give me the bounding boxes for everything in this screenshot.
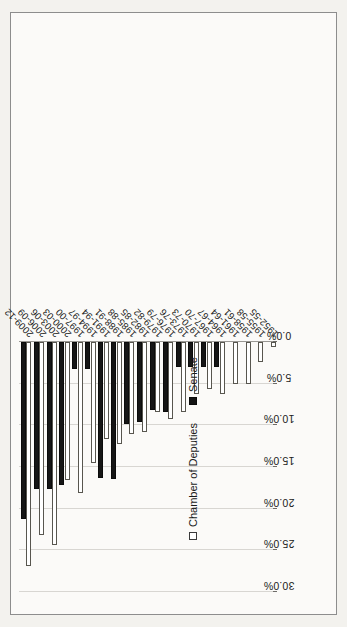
bar-group (213, 342, 226, 592)
legend-label-senate: Senate (187, 357, 199, 392)
bar-senate[interactable] (137, 342, 142, 422)
bar-senate[interactable] (214, 342, 219, 367)
bar-chamber-of-deputies[interactable] (155, 342, 160, 412)
bar-group (200, 342, 213, 592)
scanned-page: Chamber of Deputies Senate 30.0%25.0%20.… (0, 0, 347, 627)
bar-senate[interactable] (98, 342, 103, 478)
bar-chamber-of-deputies[interactable] (26, 342, 31, 566)
bar-chamber-of-deputies[interactable] (129, 342, 134, 434)
bar-chamber-of-deputies[interactable] (271, 342, 276, 347)
bar-group (238, 342, 251, 592)
bar-group (161, 342, 174, 592)
bar-group (45, 342, 58, 592)
value-axis-ticks: 30.0%25.0%20.0%15.0%10.0%5.0%0.0% (277, 342, 335, 592)
chart-rotation-host: Chamber of Deputies Senate 30.0%25.0%20.… (0, 0, 347, 627)
plot-wrapper: Chamber of Deputies Senate 30.0%25.0%20.… (11, 13, 336, 614)
plot-area: Chamber of Deputies Senate (19, 342, 277, 592)
legend-item-chamber-of-deputies[interactable]: Chamber of Deputies (187, 423, 199, 540)
bar-chamber-of-deputies[interactable] (104, 342, 109, 440)
chart-legend: Chamber of Deputies Senate (187, 357, 199, 540)
bar-group (19, 342, 32, 592)
bar-chamber-of-deputies[interactable] (39, 342, 44, 535)
bar-chamber-of-deputies[interactable] (52, 342, 57, 545)
bar-chamber-of-deputies[interactable] (65, 342, 70, 480)
bar-chamber-of-deputies[interactable] (246, 342, 251, 384)
category-axis-labels: 2009-122006-092003-062000-031997-001994-… (19, 252, 277, 342)
bar-chamber-of-deputies[interactable] (207, 342, 212, 390)
bar-chamber-of-deputies[interactable] (78, 342, 83, 493)
bar-chamber-of-deputies[interactable] (258, 342, 263, 362)
legend-swatch-hollow-square-icon (189, 532, 197, 540)
axis-tick-label: 5.0% (267, 372, 292, 384)
bar-group (135, 342, 148, 592)
bar-group (71, 342, 84, 592)
bar-senate[interactable] (34, 342, 39, 490)
axis-tick-label: 10.0% (264, 413, 295, 425)
bar-senate[interactable] (150, 342, 155, 410)
bar-senate[interactable] (201, 342, 206, 367)
bar-senate[interactable] (85, 342, 90, 370)
legend-swatch-filled-square-icon (189, 397, 197, 405)
bar-senate[interactable] (21, 342, 26, 519)
bar-group (96, 342, 109, 592)
bar-senate[interactable] (47, 342, 52, 490)
bar-group (122, 342, 135, 592)
bar-group (251, 342, 264, 592)
bar-senate[interactable] (72, 342, 77, 369)
bar-chamber-of-deputies[interactable] (168, 342, 173, 419)
bar-chamber-of-deputies[interactable] (220, 342, 225, 394)
bar-group (58, 342, 71, 592)
bar-chamber-of-deputies[interactable] (91, 342, 96, 463)
bar-senate[interactable] (124, 342, 129, 424)
bar-chamber-of-deputies[interactable] (233, 342, 238, 384)
bar-group (32, 342, 45, 592)
bar-group (84, 342, 97, 592)
axis-tick-label: 30.0% (264, 580, 295, 592)
bar-chamber-of-deputies[interactable] (142, 342, 147, 432)
axis-tick-label: 25.0% (264, 538, 295, 550)
legend-label-chamber-of-deputies: Chamber of Deputies (187, 423, 199, 527)
chart-frame: Chamber of Deputies Senate 30.0%25.0%20.… (10, 12, 337, 615)
legend-item-senate[interactable]: Senate (187, 357, 199, 405)
axis-tick-label: 15.0% (264, 455, 295, 467)
bar-senate[interactable] (111, 342, 116, 479)
bar-group (225, 342, 238, 592)
bar-chamber-of-deputies[interactable] (117, 342, 122, 445)
bar-group (109, 342, 122, 592)
bar-group (174, 342, 187, 592)
bar-senate[interactable] (176, 342, 181, 367)
bar-chamber-of-deputies[interactable] (181, 342, 186, 412)
bar-group (148, 342, 161, 592)
bar-senate[interactable] (59, 342, 64, 485)
bar-senate[interactable] (163, 342, 168, 412)
axis-tick-label: 20.0% (264, 497, 295, 509)
